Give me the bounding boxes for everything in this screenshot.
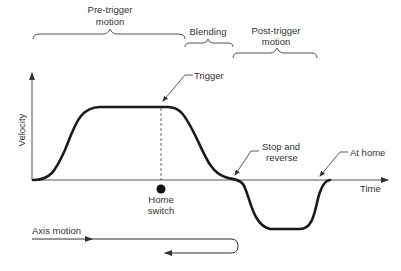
axis-motion-label: Axis motion: [32, 225, 81, 236]
pre-trigger-label-1: Pre-trigger: [88, 4, 133, 15]
pre-trigger-label-2: motion: [96, 16, 125, 27]
homing-velocity-diagram: Pre-trigger motion Blending Post-trigger…: [0, 0, 401, 271]
stop-reverse-label-2: reverse: [266, 152, 298, 163]
blending-label: Blending: [190, 26, 227, 37]
stop-reverse-label-1: Stop and: [262, 141, 300, 152]
velocity-axis-label: Velocity: [16, 113, 27, 146]
stop-reverse-leader: [235, 151, 259, 175]
trigger-label: Trigger: [194, 70, 224, 81]
time-axis-label: Time: [360, 183, 381, 194]
home-switch-dot: [157, 185, 166, 194]
post-trigger-label-1: Post-trigger: [251, 25, 300, 36]
at-home-label: At home: [350, 147, 385, 158]
velocity-curve: [33, 107, 330, 229]
post-trigger-label-2: motion: [262, 36, 291, 47]
home-switch-label-2: switch: [148, 205, 174, 216]
home-switch-label-1: Home: [148, 194, 173, 205]
axis-motion-path: [90, 239, 238, 253]
pre-trigger-brace: [33, 29, 185, 39]
post-trigger-brace: [233, 48, 317, 58]
trigger-leader: [163, 75, 193, 101]
at-home-leader: [320, 152, 348, 176]
blending-brace: [185, 39, 233, 47]
